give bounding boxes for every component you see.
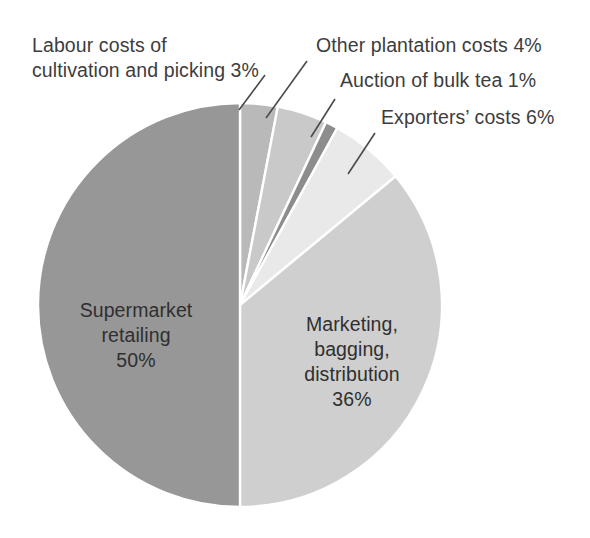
- pie-label-labour-costs: Labour costs of cultivation and picking …: [32, 33, 259, 83]
- pie-label-other-plantation-costs: Other plantation costs 4%: [316, 33, 542, 58]
- pie-label-exporters-costs: Exporters’ costs 6%: [381, 105, 555, 130]
- pie-chart: Labour costs of cultivation and picking …: [0, 0, 590, 538]
- pie-label-supermarket-retailing: Supermarket retailing 50%: [36, 298, 236, 373]
- pie-label-auction-of-bulk-tea: Auction of bulk tea 1%: [340, 68, 536, 93]
- pie-label-marketing-bagging-distribution: Marketing, bagging, distribution 36%: [262, 312, 442, 412]
